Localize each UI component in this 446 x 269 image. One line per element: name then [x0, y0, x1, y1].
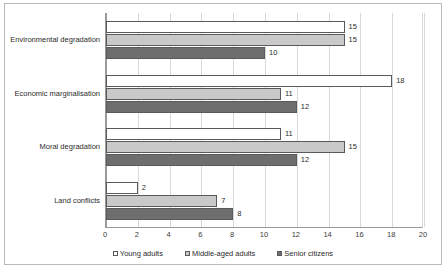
bar-row: 10: [106, 47, 424, 59]
bar[interactable]: [106, 154, 297, 166]
bar-group: 111512: [106, 121, 422, 175]
bar-group: 181112: [106, 67, 422, 121]
bar-row: 15: [106, 21, 424, 33]
bar[interactable]: [106, 88, 281, 100]
x-tick-label: 20: [419, 231, 427, 239]
x-tick-label: 2: [135, 231, 139, 239]
bar[interactable]: [106, 101, 297, 113]
x-tick-label: 4: [167, 231, 171, 239]
bar-row: 18: [106, 75, 424, 87]
category-label: Economic marginalisation: [15, 90, 100, 98]
bar-value-label: 11: [285, 131, 293, 139]
bar[interactable]: [106, 128, 281, 140]
bar[interactable]: [106, 47, 265, 59]
bar-groups: 151510181112111512278: [106, 13, 422, 227]
bar-row: 15: [106, 34, 424, 46]
gridline-20: [424, 13, 425, 227]
bar-row: 7: [106, 195, 424, 207]
plot-area: 151510181112111512278: [105, 13, 423, 228]
bar-value-label: 11: [285, 90, 293, 98]
legend-swatch-icon: [185, 251, 190, 256]
bar-row: 12: [106, 154, 424, 166]
bar-row: 8: [106, 208, 424, 220]
bar-value-label: 12: [301, 103, 309, 111]
bar-value-label: 15: [349, 23, 357, 31]
bar-row: 12: [106, 101, 424, 113]
legend-label: Senior citizens: [284, 250, 333, 258]
legend-swatch-icon: [113, 251, 118, 256]
bar-value-label: 7: [221, 197, 225, 205]
bar-group: 151510: [106, 13, 422, 67]
bar-value-label: 15: [349, 144, 357, 152]
x-tick-label: 16: [355, 231, 363, 239]
legend-swatch-icon: [277, 251, 282, 256]
bar[interactable]: [106, 208, 233, 220]
x-tick-label: 12: [292, 231, 300, 239]
category-label: Moral degradation: [40, 144, 100, 152]
bar-row: 15: [106, 141, 424, 153]
x-tick-label: 6: [198, 231, 202, 239]
bar[interactable]: [106, 182, 138, 194]
x-axis-tick-labels: 02468101214161820: [105, 231, 423, 243]
x-tick-label: 10: [260, 231, 268, 239]
x-tick-label: 18: [387, 231, 395, 239]
x-tick-label: 8: [230, 231, 234, 239]
bar[interactable]: [106, 141, 345, 153]
bar-value-label: 15: [349, 36, 357, 44]
bar-value-label: 10: [269, 49, 277, 57]
bar[interactable]: [106, 21, 345, 33]
chart-legend: Young adultsMiddle-aged adultsSenior cit…: [0, 250, 446, 258]
bar-value-label: 18: [396, 77, 404, 85]
category-label: Land conflicts: [54, 197, 100, 205]
legend-item[interactable]: Senior citizens: [277, 250, 333, 258]
bar[interactable]: [106, 75, 392, 87]
category-axis-labels: Environmental degradationEconomic margin…: [4, 13, 103, 228]
bar-value-label: 2: [142, 184, 146, 192]
bar-value-label: 12: [301, 157, 309, 165]
bar-value-label: 8: [237, 210, 241, 218]
bar-row: 11: [106, 88, 424, 100]
bar[interactable]: [106, 195, 217, 207]
legend-item[interactable]: Young adults: [113, 250, 163, 258]
bar[interactable]: [106, 34, 345, 46]
bar-row: 11: [106, 128, 424, 140]
legend-label: Young adults: [120, 250, 163, 258]
bar-chart: Environmental degradationEconomic margin…: [0, 0, 446, 269]
category-label: Environmental degradation: [10, 36, 100, 44]
legend-item[interactable]: Middle-aged adults: [185, 250, 255, 258]
bar-group: 278: [106, 174, 422, 228]
x-tick-label: 14: [323, 231, 331, 239]
legend-label: Middle-aged adults: [192, 250, 255, 258]
x-tick-label: 0: [103, 231, 107, 239]
bar-row: 2: [106, 182, 424, 194]
